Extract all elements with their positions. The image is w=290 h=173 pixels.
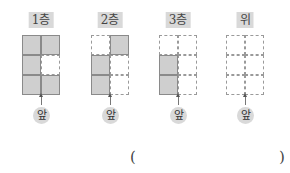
panel-4: 위앞 [215,0,275,130]
grid-cell-empty [41,55,60,75]
grid-cell-filled [159,75,178,95]
arrow-up-icon [110,96,111,105]
grid-cell-filled [41,35,60,55]
panel-2: 2층앞 [80,0,140,130]
grid-cell-filled [91,55,110,75]
grid-cell-filled [22,35,41,55]
panel-3: 3층앞 [148,0,208,130]
cube-grid [159,35,197,95]
arrow-up-icon [41,96,42,105]
panel-1: 1층앞 [11,0,71,130]
arrow-up-icon [245,96,246,105]
grid-cell-filled [41,75,60,95]
front-label: 앞 [237,107,254,124]
grid-cell-empty [226,35,245,55]
grid-cell-empty [178,35,197,55]
grid-cell-filled [91,75,110,95]
answer-open-paren: ( [130,148,136,166]
cube-grid [22,35,60,95]
grid-cell-empty [226,75,245,95]
arrow-up-icon [178,96,179,105]
front-label: 앞 [102,107,119,124]
cube-grid [226,35,264,95]
grid-cell-empty [159,35,178,55]
grid-cell-empty [178,75,197,95]
answer-blank[interactable] [142,148,272,166]
grid-cell-empty [110,75,129,95]
grid-cell-filled [22,75,41,95]
grid-cell-filled [159,55,178,75]
panel-label: 위 [237,12,254,28]
grid-cell-empty [226,55,245,75]
grid-cell-empty [178,55,197,75]
grid-cell-empty [245,75,264,95]
grid-cell-empty [245,55,264,75]
panel-label: 1층 [29,12,54,28]
front-label: 앞 [33,107,50,124]
grid-cell-empty [91,35,110,55]
cube-grid [91,35,129,95]
answer-close-paren: ) [279,148,285,166]
grid-cell-filled [110,35,129,55]
grid-cell-empty [110,55,129,75]
grid-cell-empty [245,35,264,55]
front-label: 앞 [170,107,187,124]
panel-label: 3층 [166,12,191,28]
grid-cell-filled [22,55,41,75]
panel-label: 2층 [98,12,123,28]
